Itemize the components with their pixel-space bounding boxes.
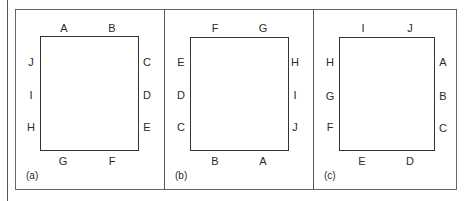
label-right-1: H xyxy=(288,56,302,68)
label-right-2: B xyxy=(436,90,450,102)
label-top-1: I xyxy=(356,22,370,34)
label-top-1: F xyxy=(208,22,222,34)
panel-a-rectangle xyxy=(40,36,139,151)
label-right-3: J xyxy=(288,121,302,133)
panel-c-rectangle xyxy=(339,37,435,151)
label-left-2: G xyxy=(323,90,337,102)
label-left-3: F xyxy=(323,121,337,133)
label-top-1: A xyxy=(57,22,71,34)
label-bottom-1: E xyxy=(355,155,369,167)
label-right-1: C xyxy=(140,56,154,68)
panel-divider-ab xyxy=(164,9,165,190)
label-left-2: D xyxy=(174,89,188,101)
panel-b-caption: (b) xyxy=(175,170,187,182)
label-left-3: C xyxy=(174,121,188,133)
panel-b-rectangle xyxy=(190,37,289,151)
label-left-1: J xyxy=(24,56,38,68)
label-bottom-1: B xyxy=(208,155,222,167)
label-left-2: I xyxy=(24,89,38,101)
label-right-3: E xyxy=(140,121,154,133)
label-bottom-2: F xyxy=(105,155,119,167)
panel-divider-bc xyxy=(313,9,314,190)
label-bottom-2: D xyxy=(403,155,417,167)
label-right-2: D xyxy=(140,89,154,101)
panel-c-caption: (c) xyxy=(324,170,336,182)
label-right-3: C xyxy=(436,122,450,134)
panel-a-caption: (a) xyxy=(26,170,38,182)
label-left-1: H xyxy=(323,56,337,68)
label-bottom-1: G xyxy=(56,155,70,167)
label-top-2: B xyxy=(105,22,119,34)
label-right-1: A xyxy=(436,56,450,68)
label-bottom-2: A xyxy=(256,155,270,167)
label-left-1: E xyxy=(174,56,188,68)
label-top-2: J xyxy=(403,22,417,34)
left-margin-rule xyxy=(7,0,8,201)
label-left-3: H xyxy=(24,121,38,133)
label-top-2: G xyxy=(256,22,270,34)
label-right-2: I xyxy=(288,89,302,101)
